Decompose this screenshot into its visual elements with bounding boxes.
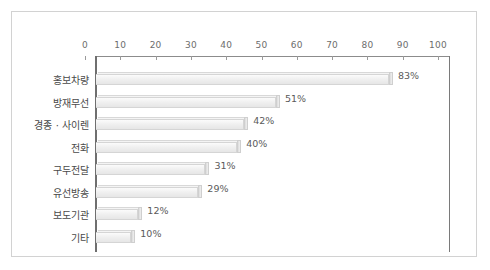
axis-tick-label-60: 60 [291, 40, 303, 50]
bar-end-cap [198, 185, 202, 198]
axis-tick-label-0: 0 [82, 40, 88, 50]
bar-end-cap [276, 95, 280, 108]
bar-end-cap [131, 230, 135, 243]
plot-area: 홍보차량83%방재무선51%경종 · 사이렌42%전화40%구두전달31%유선방… [96, 56, 449, 252]
bar-end-cap [237, 140, 241, 153]
bar-front-face [96, 164, 205, 175]
bar-value-label: 10% [140, 228, 161, 239]
bar-front-face [96, 119, 244, 130]
bar[interactable] [96, 185, 202, 198]
bar[interactable] [96, 162, 209, 175]
axis-tick-label-90: 90 [397, 40, 409, 50]
chart-row: 기타10% [96, 226, 449, 248]
category-label: 홍보차량 [0, 72, 89, 87]
chart-row: 전화40% [96, 136, 449, 158]
axis-tick-0 [85, 56, 86, 60]
chart-row: 홍보차량83% [96, 68, 449, 90]
bar-value-label: 40% [246, 138, 267, 149]
bar-front-face [96, 142, 237, 153]
bar[interactable] [96, 117, 248, 130]
bar-value-label: 83% [398, 70, 419, 81]
bar[interactable] [96, 207, 142, 220]
bar-front-face [96, 232, 131, 243]
bar[interactable] [96, 230, 135, 243]
chart-row: 경종 · 사이렌42% [96, 113, 449, 135]
bar-value-label: 51% [285, 93, 306, 104]
category-label: 방재무선 [0, 95, 89, 110]
chart-frame: 0102030405060708090100 홍보차량83%방재무선51%경종 … [11, 11, 477, 257]
bar[interactable] [96, 140, 241, 153]
axis-tick-label-50: 50 [256, 40, 268, 50]
chart-row: 보도기관12% [96, 203, 449, 225]
chart-figure: 0102030405060708090100 홍보차량83%방재무선51%경종 … [0, 0, 490, 270]
category-label: 전화 [0, 140, 89, 155]
bar-front-face [96, 74, 389, 85]
chart-row: 유선방송29% [96, 181, 449, 203]
axis-tick-label-20: 20 [150, 40, 162, 50]
bar-end-cap [389, 72, 393, 85]
bar[interactable] [96, 95, 280, 108]
bar-value-label: 42% [253, 115, 274, 126]
category-label: 기타 [0, 230, 89, 245]
axis-tick-label-40: 40 [220, 40, 232, 50]
bar-front-face [96, 209, 138, 220]
bar-value-label: 31% [214, 160, 235, 171]
bar-front-face [96, 97, 276, 108]
category-label: 유선방송 [0, 185, 89, 200]
bar-end-cap [205, 162, 209, 175]
axis-right-boundary [449, 56, 450, 252]
category-label: 보도기관 [0, 207, 89, 222]
chart-row: 방재무선51% [96, 91, 449, 113]
bar-value-label: 29% [207, 183, 228, 194]
chart-row: 구두전달31% [96, 158, 449, 180]
axis-tick-label-100: 100 [429, 40, 447, 50]
category-label: 구두전달 [0, 162, 89, 177]
axis-tick-label-10: 10 [114, 40, 126, 50]
axis-tick-label-80: 80 [361, 40, 373, 50]
category-label: 경종 · 사이렌 [0, 117, 89, 132]
bar-end-cap [244, 117, 248, 130]
bar[interactable] [96, 72, 393, 85]
bar-front-face [96, 187, 198, 198]
bar-value-label: 12% [147, 205, 168, 216]
axis-tick-label-70: 70 [326, 40, 338, 50]
axis-tick-label-30: 30 [185, 40, 197, 50]
bar-end-cap [138, 207, 142, 220]
